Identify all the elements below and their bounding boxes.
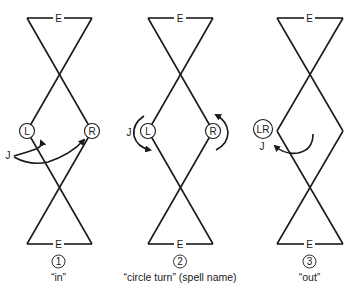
svg-text:L: L: [145, 126, 151, 137]
top-end-label: E: [177, 13, 184, 24]
top-end-label: E: [55, 13, 62, 24]
dancer-l: L: [20, 124, 35, 139]
svg-text:R: R: [88, 126, 95, 137]
top-end-label: E: [306, 13, 313, 24]
arrow-icon: [14, 141, 41, 156]
panel-1: E E L R J 1 “in”: [6, 13, 100, 284]
svg-text:R: R: [209, 126, 216, 137]
bottom-end-label: E: [55, 239, 62, 250]
step-caption: “circle turn” (spell name): [123, 271, 236, 283]
panel-3: E E LR J 3 “out”: [254, 13, 344, 284]
dancer-r: R: [85, 124, 100, 139]
jumper-label: J: [6, 150, 11, 161]
step-number: 3: [307, 256, 313, 267]
panel-2: E E L R J 2 “circle turn” (spell name): [123, 13, 236, 284]
step-caption: “in”: [51, 271, 67, 283]
step-number: 1: [56, 256, 62, 267]
rope-figure-diagram: E E L R J 1 “in” E: [0, 0, 351, 290]
bottom-end-label: E: [306, 239, 313, 250]
svg-text:LR: LR: [257, 124, 270, 135]
svg-text:L: L: [24, 126, 30, 137]
jumper-label: J: [260, 141, 265, 152]
arrow-icon: [14, 140, 84, 163]
step-caption: “out”: [299, 271, 321, 283]
dancer-r: R: [206, 124, 221, 139]
dancer-l: L: [141, 124, 156, 139]
jumper-label: J: [127, 127, 132, 138]
step-number: 2: [177, 256, 183, 267]
bottom-end-label: E: [177, 239, 184, 250]
dancers-lr: LR: [254, 120, 273, 139]
